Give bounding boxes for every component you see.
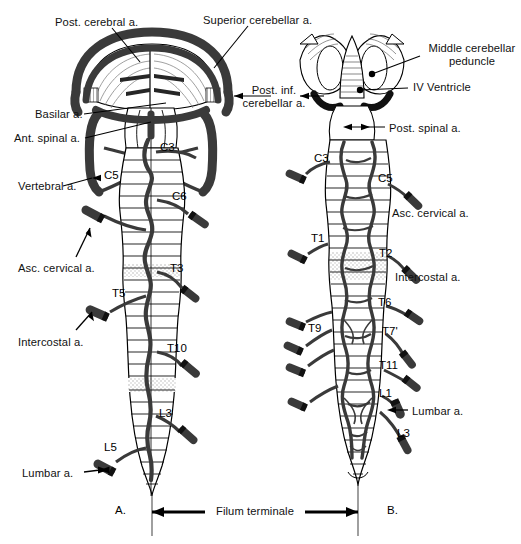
label-ant-spinal-artery: Ant. spinal a. bbox=[14, 132, 80, 145]
label-segment-c3-right: C3 bbox=[314, 152, 329, 164]
label-intercostal-artery: Intercostal a. bbox=[18, 336, 83, 349]
label-basilar-artery: Basilar a. bbox=[35, 108, 83, 121]
label-segment-t11-right: T11 bbox=[379, 359, 398, 371]
label-segment-l3: L3 bbox=[159, 407, 172, 419]
spinal-cord-posterior bbox=[325, 140, 391, 486]
caption-filum-terminale: Filum terminale bbox=[207, 505, 303, 518]
panel-letter-b: B. bbox=[387, 504, 398, 516]
label-lumbar-artery-right: Lumbar a. bbox=[412, 405, 463, 418]
label-segment-t3: T3 bbox=[170, 262, 183, 274]
label-segment-t10: T10 bbox=[167, 342, 187, 354]
label-segment-c5-right: C5 bbox=[378, 172, 393, 184]
cerebellum-anterior bbox=[84, 44, 220, 110]
label-middle-cerebellar-peduncle: Middle cerebellar peduncle bbox=[424, 42, 520, 67]
spinal-cord-arterial-supply-figure: Post. cerebral a. Superior cerebellar a.… bbox=[0, 0, 521, 544]
label-segment-t7-right: T7' bbox=[382, 325, 398, 337]
label-intercostal-artery-right: Intercostal a. bbox=[395, 271, 460, 284]
label-segment-c3: C3 bbox=[160, 141, 175, 153]
label-asc-cervical-artery: Asc. cervical a. bbox=[18, 262, 95, 275]
label-segment-l1-right: L1 bbox=[379, 387, 392, 399]
label-segment-c6: C6 bbox=[172, 190, 187, 202]
label-iv-ventricle: IV Ventricle bbox=[413, 81, 471, 94]
label-post-spinal-artery: Post. spinal a. bbox=[389, 122, 461, 135]
label-segment-t5: T5 bbox=[112, 287, 125, 299]
label-segment-t6-right: T6 bbox=[378, 296, 391, 308]
label-segment-t1-right: T1 bbox=[311, 232, 324, 244]
label-segment-c5: C5 bbox=[104, 169, 119, 181]
label-post-inf-cerebellar-artery: Post. inf. cerebellar a. bbox=[228, 84, 320, 109]
right-figure-group bbox=[282, 34, 424, 536]
label-segment-l3-right: L3 bbox=[397, 427, 410, 439]
label-vertebral-artery: Vertebral a. bbox=[18, 180, 76, 193]
vertebral-artery-right-vessel bbox=[203, 114, 213, 192]
label-segment-t2-right: T2 bbox=[379, 247, 392, 259]
label-asc-cervical-artery-right: Asc. cervical a. bbox=[392, 207, 469, 220]
vertebral-artery-left-vessel bbox=[89, 114, 99, 192]
label-segment-t9-right: T9 bbox=[308, 322, 321, 334]
panel-letter-a: A. bbox=[115, 504, 126, 516]
label-lumbar-artery-left: Lumbar a. bbox=[22, 467, 73, 480]
label-post-cerebral-artery: Post. cerebral a. bbox=[55, 16, 138, 29]
label-segment-l5: L5 bbox=[104, 441, 117, 453]
label-superior-cerebellar-artery: Superior cerebellar a. bbox=[203, 14, 312, 27]
